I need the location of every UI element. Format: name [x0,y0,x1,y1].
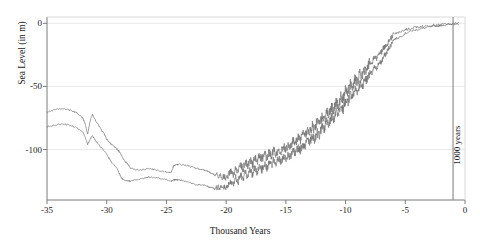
x-tick-label: -25 [160,206,172,215]
x-tick-label: -30 [101,206,113,215]
axes-group [47,17,465,200]
reference-marker-label: 1000 years [452,105,462,185]
sea-level-upper [47,22,458,180]
x-tick-label: -20 [220,206,232,215]
x-tick-label: -5 [402,206,410,215]
x-axis-title: Thousand Years [0,226,480,236]
data-series-group [47,22,458,190]
y-tick-label: -100 [10,145,42,154]
x-tick-label: -35 [41,206,53,215]
y-axis-title: Sea Level (in m) [17,0,27,113]
x-tick-label: -15 [280,206,292,215]
x-tick-label: 0 [463,206,468,215]
gridlines-group [47,23,465,149]
x-tick-label: -10 [340,206,352,215]
sea-level-chart-figure: -35-30-25-20-15-10-50 0-50-100 Thousand … [0,0,480,249]
tick-marks-group [43,23,465,204]
